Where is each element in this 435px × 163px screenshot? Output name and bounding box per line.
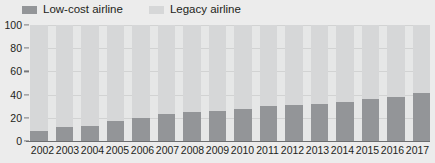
legend-item-legacy: Legacy airline	[149, 4, 241, 15]
bar-segment-low-cost-2014[interactable]	[336, 102, 354, 141]
bar-segment-legacy-2004[interactable]	[81, 25, 99, 126]
bar-segment-legacy-2003[interactable]	[56, 25, 74, 127]
bar-segment-legacy-2013[interactable]	[311, 25, 329, 104]
bar-group-2017[interactable]	[413, 25, 431, 141]
bar-segment-low-cost-2015[interactable]	[362, 99, 380, 141]
bar-segment-low-cost-2010[interactable]	[234, 109, 252, 141]
bar-group-2015[interactable]	[362, 25, 380, 141]
y-axis-tick-40	[24, 94, 29, 95]
bar-segment-low-cost-2016[interactable]	[387, 97, 405, 141]
bar-group-2012[interactable]	[285, 25, 303, 141]
x-axis-label-2017: 2017	[405, 144, 430, 160]
y-axis-label-20: 20	[10, 112, 22, 124]
bar-group-2004[interactable]	[81, 25, 99, 141]
x-axis-label-2008: 2008	[180, 144, 205, 160]
plot-area	[30, 25, 430, 141]
legend-swatch-low-cost	[22, 6, 37, 14]
bar-series-container	[30, 25, 430, 141]
legend-item-low-cost: Low-cost airline	[22, 4, 123, 15]
bar-segment-legacy-2009[interactable]	[209, 25, 227, 111]
x-axis-label-2015: 2015	[355, 144, 380, 160]
bar-segment-low-cost-2002[interactable]	[30, 131, 48, 141]
chart-legend: Low-cost airline Legacy airline	[0, 0, 435, 19]
y-axis-label-40: 40	[10, 89, 22, 101]
y-axis-tick-20	[24, 117, 29, 118]
bar-segment-legacy-2008[interactable]	[183, 25, 201, 112]
y-axis-label-100: 100	[4, 19, 22, 31]
bar-segment-low-cost-2008[interactable]	[183, 112, 201, 141]
x-axis-label-2011: 2011	[255, 144, 280, 160]
bar-group-2003[interactable]	[56, 25, 74, 141]
x-axis-label-2009: 2009	[205, 144, 230, 160]
bar-segment-low-cost-2005[interactable]	[107, 121, 125, 141]
bar-segment-legacy-2016[interactable]	[387, 25, 405, 97]
bar-segment-legacy-2006[interactable]	[132, 25, 150, 118]
bar-segment-low-cost-2004[interactable]	[81, 126, 99, 141]
bar-segment-low-cost-2003[interactable]	[56, 127, 74, 141]
bar-group-2008[interactable]	[183, 25, 201, 141]
bar-segment-legacy-2017[interactable]	[413, 25, 431, 93]
bar-segment-low-cost-2009[interactable]	[209, 111, 227, 141]
bar-segment-low-cost-2011[interactable]	[260, 106, 278, 141]
bar-segment-low-cost-2007[interactable]	[158, 114, 176, 141]
y-axis-label-60: 60	[10, 65, 22, 77]
x-axis-label-2002: 2002	[30, 144, 55, 160]
bar-segment-legacy-2002[interactable]	[30, 25, 48, 131]
bar-group-2006[interactable]	[132, 25, 150, 141]
y-axis-tick-100	[24, 24, 29, 25]
legend-swatch-legacy	[149, 6, 164, 14]
x-axis-label-2010: 2010	[230, 144, 255, 160]
bar-segment-legacy-2012[interactable]	[285, 25, 303, 105]
bar-segment-low-cost-2012[interactable]	[285, 105, 303, 141]
bar-group-2007[interactable]	[158, 25, 176, 141]
y-axis-tick-60	[24, 71, 29, 72]
y-axis-label-0: 0	[16, 135, 22, 147]
x-axis-label-2012: 2012	[280, 144, 305, 160]
y-axis-label-80: 80	[10, 42, 22, 54]
x-axis-label-2016: 2016	[380, 144, 405, 160]
bar-group-2005[interactable]	[107, 25, 125, 141]
stacked-bar-chart: Low-cost airline Legacy airline 02040608…	[0, 0, 435, 163]
bar-group-2002[interactable]	[30, 25, 48, 141]
bar-group-2010[interactable]	[234, 25, 252, 141]
x-axis-label-2005: 2005	[105, 144, 130, 160]
bar-group-2009[interactable]	[209, 25, 227, 141]
bar-segment-legacy-2014[interactable]	[336, 25, 354, 102]
bar-segment-legacy-2010[interactable]	[234, 25, 252, 109]
bar-group-2011[interactable]	[260, 25, 278, 141]
bar-segment-low-cost-2006[interactable]	[132, 118, 150, 141]
bar-group-2014[interactable]	[336, 25, 354, 141]
legend-label-legacy: Legacy airline	[170, 4, 241, 15]
bar-group-2016[interactable]	[387, 25, 405, 141]
x-axis-label-2004: 2004	[80, 144, 105, 160]
x-axis-label-2007: 2007	[155, 144, 180, 160]
y-axis: 020406080100	[0, 25, 30, 141]
x-axis-label-2003: 2003	[55, 144, 80, 160]
x-axis-label-2013: 2013	[305, 144, 330, 160]
x-axis-labels: 2002200320042005200620072008200920102011…	[30, 144, 430, 160]
bar-segment-legacy-2015[interactable]	[362, 25, 380, 99]
bar-segment-legacy-2011[interactable]	[260, 25, 278, 106]
x-axis-label-2014: 2014	[330, 144, 355, 160]
y-axis-tick-80	[24, 48, 29, 49]
x-axis-line	[26, 141, 430, 142]
bar-group-2013[interactable]	[311, 25, 329, 141]
bar-segment-legacy-2005[interactable]	[107, 25, 125, 121]
bar-segment-legacy-2007[interactable]	[158, 25, 176, 114]
bar-segment-low-cost-2013[interactable]	[311, 104, 329, 141]
bar-segment-low-cost-2017[interactable]	[413, 93, 431, 141]
x-axis-label-2006: 2006	[130, 144, 155, 160]
legend-label-low-cost: Low-cost airline	[43, 4, 123, 15]
